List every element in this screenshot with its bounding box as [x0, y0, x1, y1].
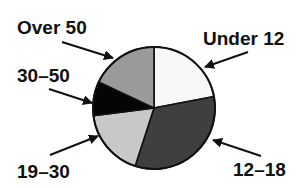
- arrow-icon: [213, 140, 261, 156]
- arrow-icon: [205, 52, 248, 67]
- arrow-icon: [49, 89, 92, 103]
- arrow-icon: [62, 42, 113, 58]
- label-under-12: Under 12: [203, 28, 284, 49]
- arrow-icon: [50, 136, 98, 155]
- pie-chart: Under 12 12–18 19–30 30–50 Over 50: [0, 0, 300, 188]
- label-12-18: 12–18: [233, 159, 286, 180]
- label-19-30: 19–30: [17, 161, 70, 182]
- label-30-50: 30–50: [17, 65, 70, 86]
- label-over-50: Over 50: [17, 17, 87, 38]
